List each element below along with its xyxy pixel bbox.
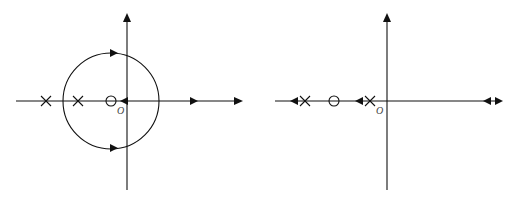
right-locus-arrow-2-icon [355,97,363,105]
right-diagram [275,20,500,190]
right-locus-arrow-1-icon [290,97,298,105]
origin-label-left: O [117,106,124,116]
root-locus-figure [0,0,513,201]
left-diagram [16,20,236,190]
right-real-arrow-icon [495,97,503,105]
left-imag-arrow-icon [123,13,131,22]
locus-arrow-left-icon [120,97,128,105]
left-real-arrow-icon [234,97,243,105]
right-imag-arrow-icon [383,13,391,22]
locus-arrow-right-icon [190,97,198,105]
circle-arrow-top-icon [110,49,118,57]
origin-label-right: O [376,106,383,116]
right-locus-arrow-3-icon [483,97,491,105]
circle-arrow-bottom-icon [110,144,118,152]
